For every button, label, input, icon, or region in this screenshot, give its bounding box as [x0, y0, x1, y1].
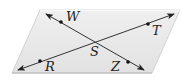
label-t: T — [152, 23, 162, 38]
point-w-dot — [59, 20, 63, 24]
label-s: S — [90, 44, 99, 59]
label-z: Z — [110, 59, 121, 74]
label-w: W — [66, 9, 81, 24]
point-t-dot — [146, 22, 150, 26]
label-r: R — [44, 59, 55, 74]
point-z-dot — [126, 60, 130, 64]
plane-diagram: W T S R Z — [0, 0, 182, 81]
point-r-dot — [38, 59, 42, 63]
diagram-canvas: W T S R Z — [0, 0, 182, 81]
